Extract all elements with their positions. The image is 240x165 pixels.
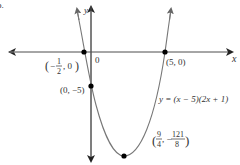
figure-label: b. bbox=[0, 0, 4, 10]
point-x-intercept-right bbox=[162, 49, 167, 54]
parabola-graph: b. x y 0 ( − 1 2 , 0 ) (5, 0) (0, −5) y … bbox=[0, 0, 240, 165]
svg-text:1: 1 bbox=[57, 57, 61, 66]
svg-text:, 0: , 0 bbox=[63, 61, 73, 71]
point-y-intercept bbox=[88, 83, 93, 88]
svg-text:−: − bbox=[50, 61, 55, 71]
svg-text:(: ( bbox=[45, 59, 49, 73]
curve-arrow-right bbox=[170, 9, 172, 20]
label-y-intercept: (0, −5) bbox=[60, 85, 85, 95]
y-axis-label: y bbox=[83, 5, 88, 15]
label-vertex: ( 9 4 , − 121 8 ) bbox=[152, 130, 189, 149]
svg-text:): ) bbox=[75, 59, 79, 73]
point-x-intercept-left bbox=[81, 49, 86, 54]
svg-text:, −: , − bbox=[162, 134, 172, 144]
svg-text:121: 121 bbox=[172, 130, 184, 139]
svg-text:): ) bbox=[185, 133, 189, 148]
svg-text:8: 8 bbox=[175, 140, 179, 149]
label-x-intercept-left: ( − 1 2 , 0 ) bbox=[45, 57, 79, 76]
svg-text:2: 2 bbox=[57, 67, 61, 76]
svg-text:4: 4 bbox=[157, 140, 161, 149]
x-axis-label: x bbox=[231, 53, 237, 64]
svg-text:(: ( bbox=[152, 133, 156, 148]
curve-arrow-left bbox=[77, 9, 79, 20]
origin-label: 0 bbox=[95, 55, 100, 65]
equation-label: y = (x − 5)(2x + 1) bbox=[158, 94, 228, 104]
point-vertex bbox=[121, 153, 126, 158]
svg-text:9: 9 bbox=[157, 130, 161, 139]
label-x-intercept-right: (5, 0) bbox=[166, 57, 186, 67]
